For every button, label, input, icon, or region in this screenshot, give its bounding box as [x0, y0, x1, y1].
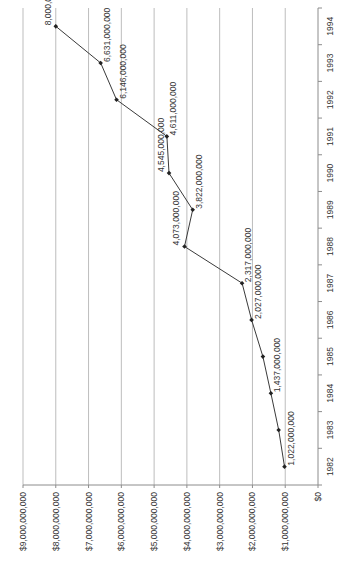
data-label: 4,611,000,000: [168, 81, 178, 135]
data-point-marker: [276, 428, 281, 433]
data-label: 4,073,000,000: [171, 191, 181, 246]
category-tick-label: 1993: [325, 53, 335, 72]
data-label: 2,027,000,000: [253, 264, 263, 319]
value-tick-label: $4,000,000,000: [182, 492, 192, 551]
category-tick-label: 1991: [325, 127, 335, 146]
data-label: 8,000,000,000: [43, 0, 53, 25]
category-tick-label: 1988: [325, 237, 335, 256]
value-tick-label: $9,000,000,000: [18, 492, 28, 551]
category-tick-label: 1989: [325, 200, 335, 219]
category-tick-label: 1987: [325, 273, 335, 292]
value-tick-label: $8,000,000,000: [51, 492, 61, 551]
data-label: 2,317,000,000: [243, 228, 253, 283]
data-label: 6,146,000,000: [118, 44, 128, 99]
data-label: 4,545,000,000: [156, 117, 166, 172]
category-axis-tick-labels: 1982198319841985198619871988198919901991…: [325, 17, 335, 476]
data-labels: 1,022,000,0001,437,000,0002,027,000,0002…: [43, 0, 296, 466]
value-tick-label: $6,000,000,000: [116, 492, 126, 551]
category-tick-label: 1984: [325, 384, 335, 403]
category-tick-label: 1990: [325, 163, 335, 182]
value-tick-label: $1,000,000,000: [280, 492, 290, 551]
value-tick-label: $2,000,000,000: [247, 492, 257, 551]
value-axis-tick-labels: $0$1,000,000,000$2,000,000,000$3,000,000…: [18, 492, 323, 551]
value-tick-label: $3,000,000,000: [215, 492, 225, 551]
line-chart: $0$1,000,000,000$2,000,000,000$3,000,000…: [0, 0, 345, 576]
category-tick-label: 1994: [325, 17, 335, 36]
category-tick-label: 1986: [325, 310, 335, 329]
category-tick-label: 1992: [325, 90, 335, 109]
value-tick-label: $5,000,000,000: [149, 492, 159, 551]
data-label: 3,822,000,000: [194, 154, 204, 209]
value-tick-label: $7,000,000,000: [84, 492, 94, 551]
data-label: 6,631,000,000: [102, 7, 112, 62]
category-tick-label: 1985: [325, 347, 335, 366]
category-tick-label: 1982: [325, 457, 335, 476]
value-tick-label: $0: [313, 492, 323, 502]
data-point-marker: [261, 354, 266, 359]
data-label: 1,437,000,000: [272, 338, 282, 393]
axes: [23, 8, 322, 488]
data-label: 1,022,000,000: [286, 411, 296, 466]
category-tick-label: 1983: [325, 420, 335, 439]
